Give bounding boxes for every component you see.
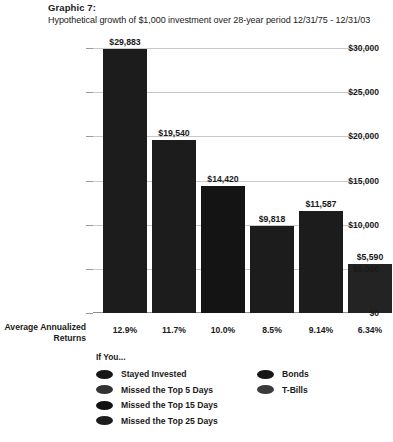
legend-item-label: T-Bills bbox=[282, 385, 308, 395]
chart-page: Graphic 7: Hypothetical growth of $1,000… bbox=[0, 0, 393, 442]
y-axis-tick-label: $15,000 bbox=[348, 176, 379, 186]
bar[interactable] bbox=[299, 211, 343, 313]
annualized-returns-label-line2: Returns bbox=[0, 333, 86, 344]
y-axis-tick bbox=[86, 225, 93, 226]
bar-value-label: $19,540 bbox=[139, 128, 209, 138]
legend-item[interactable]: Stayed Invested bbox=[96, 367, 186, 381]
legend-swatch-tbills bbox=[257, 385, 274, 394]
y-axis-tick bbox=[86, 313, 93, 314]
legend-item[interactable]: Missed the Top 5 Days bbox=[96, 383, 213, 397]
legend-item[interactable]: T-Bills bbox=[257, 383, 308, 397]
legend-item-label: Missed the Top 15 Days bbox=[121, 400, 218, 410]
annualized-returns-axis-label: Average Annualized Returns bbox=[0, 322, 86, 343]
bar-value-label: $29,883 bbox=[90, 37, 160, 47]
legend-swatch-missed-15 bbox=[96, 401, 113, 410]
legend-swatch-missed-25 bbox=[96, 416, 113, 425]
legend-item-label: Missed the Top 25 Days bbox=[121, 416, 218, 426]
legend-columns: Stayed InvestedMissed the Top 5 DaysMiss… bbox=[96, 367, 386, 429]
graphic-subtitle: Hypothetical growth of $1,000 investment… bbox=[48, 15, 370, 25]
annualized-returns-label-line1: Average Annualized bbox=[0, 322, 86, 333]
y-axis-tick-label: $20,000 bbox=[348, 131, 379, 141]
legend-title: If You... bbox=[96, 352, 386, 362]
bar-value-label: $9,818 bbox=[237, 214, 307, 224]
bar[interactable] bbox=[250, 226, 294, 313]
bar-value-label: $14,420 bbox=[188, 174, 258, 184]
y-axis-tick bbox=[86, 92, 93, 93]
y-axis-tick-label: $25,000 bbox=[348, 87, 379, 97]
bar[interactable] bbox=[103, 49, 147, 313]
graphic-number-title: Graphic 7: bbox=[48, 2, 96, 13]
y-axis-tick bbox=[86, 48, 93, 49]
y-axis-tick-label: $30,000 bbox=[348, 43, 379, 53]
annualized-return-value: 6.34% bbox=[340, 325, 393, 335]
legend-swatch-stayed-invested bbox=[96, 370, 113, 379]
y-axis-tick bbox=[86, 269, 93, 270]
legend-item-label: Bonds bbox=[282, 369, 309, 379]
legend-item-label: Missed the Top 5 Days bbox=[121, 385, 213, 395]
legend-swatch-bonds bbox=[257, 370, 274, 379]
y-axis-tick-label: $0 bbox=[370, 308, 379, 318]
plot-area: $29,883$19,540$14,420$9,818$11,587$5,590 bbox=[93, 48, 373, 313]
legend-item[interactable]: Missed the Top 25 Days bbox=[96, 414, 218, 428]
bar-value-label: $11,587 bbox=[286, 199, 356, 209]
y-axis-tick bbox=[86, 136, 93, 137]
y-axis-tick-label: $5,000 bbox=[353, 264, 379, 274]
legend-item[interactable]: Missed the Top 15 Days bbox=[96, 398, 218, 412]
y-axis-tick bbox=[86, 181, 93, 182]
y-axis bbox=[0, 48, 88, 313]
bar[interactable] bbox=[201, 186, 245, 313]
bar-value-label: $5,590 bbox=[335, 252, 393, 262]
legend-item-label: Stayed Invested bbox=[121, 369, 186, 379]
bar[interactable] bbox=[152, 140, 196, 313]
chart-legend: If You... Stayed InvestedMissed the Top … bbox=[96, 352, 386, 429]
legend-item[interactable]: Bonds bbox=[257, 367, 309, 381]
y-axis-tick-label: $10,000 bbox=[348, 220, 379, 230]
legend-swatch-missed-5 bbox=[96, 385, 113, 394]
